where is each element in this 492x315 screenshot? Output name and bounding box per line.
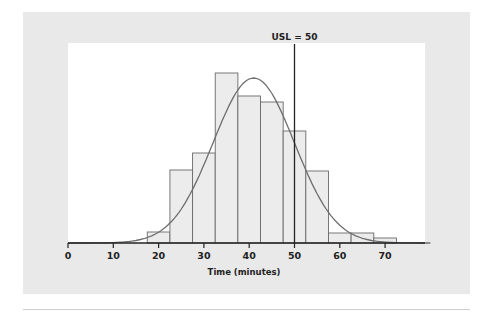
x-tick-label: 70 (378, 250, 392, 261)
histogram-bar (261, 102, 284, 243)
histogram-bar (147, 232, 170, 243)
x-tick-label: 60 (333, 250, 347, 261)
x-tick-label: 10 (107, 250, 121, 261)
x-tick-label: 20 (152, 250, 166, 261)
histogram-bar (193, 153, 216, 243)
histogram-chart: USL = 50 010203040506070 Time (minutes) (0, 0, 492, 315)
histogram-bar (328, 233, 351, 243)
usl-label: USL = 50 (272, 32, 318, 42)
histogram-bar (238, 96, 261, 243)
x-tick-label: 40 (243, 250, 257, 261)
histogram-bar (170, 170, 193, 243)
x-ticks: 010203040506070 (65, 243, 392, 261)
histogram-bar (215, 73, 238, 243)
x-tick-label: 30 (197, 250, 211, 261)
x-tick-label: 0 (65, 250, 72, 261)
x-tick-label: 50 (288, 250, 302, 261)
x-axis-title: Time (minutes) (208, 267, 281, 277)
